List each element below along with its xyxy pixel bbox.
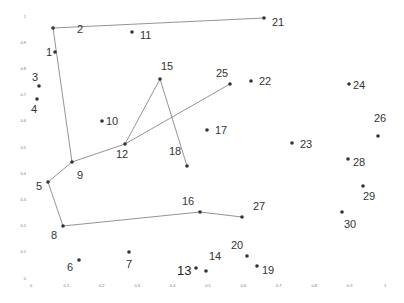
point-label-30: 30 [344,218,356,230]
y-tick-label: 0.1 [20,249,26,254]
connection-lines [48,18,264,226]
edge-16-27 [200,212,242,217]
y-tick-label: 1 [24,14,27,19]
point-label-5: 5 [36,180,42,192]
point-label-17: 17 [215,124,227,136]
x-tick-label: 0.4 [170,283,176,288]
point-label-14: 14 [209,250,221,262]
point-16 [198,210,202,214]
point-14 [204,269,208,273]
point-labels: 1234567891011121314151617181920212223242… [31,16,386,278]
point-23 [290,141,294,145]
point-6 [77,258,81,262]
point-24 [347,82,351,86]
point-label-1: 1 [46,46,52,58]
y-tick-label: 0.9 [20,40,26,45]
edge-2-9 [53,28,72,162]
point-label-11: 11 [140,29,151,41]
point-label-22: 22 [259,75,271,87]
point-11 [130,30,134,34]
y-tick-label: 0.7 [20,92,26,97]
point-5 [46,180,50,184]
point-label-18: 18 [169,145,181,157]
y-axis-ticks: 00.10.20.30.40.50.60.70.80.91 [20,14,26,281]
y-tick-label: 0.3 [20,197,26,202]
data-points [35,16,380,273]
edge-2-21 [53,18,264,28]
point-label-16: 16 [182,195,194,207]
x-tick-label: 0 [30,283,33,288]
point-label-29: 29 [363,190,375,202]
point-label-9: 9 [77,169,83,181]
point-label-6: 6 [67,261,73,273]
scatter-chart: 00.10.20.30.40.50.60.70.80.91 00.10.20.3… [0,0,404,303]
point-label-19: 19 [262,264,274,276]
point-7 [127,250,131,254]
point-13 [194,266,198,270]
x-axis-ticks: 00.10.20.30.40.50.60.70.80.91 [30,283,387,288]
point-9 [70,160,74,164]
point-8 [61,224,65,228]
x-tick-label: 0.2 [99,283,105,288]
point-4 [35,97,39,101]
point-label-10: 10 [106,115,118,127]
x-tick-label: 0.7 [276,283,282,288]
point-18 [185,164,189,168]
point-28 [346,157,350,161]
x-tick-label: 0.5 [205,283,211,288]
point-20 [245,254,249,258]
point-label-21: 21 [272,16,284,28]
y-tick-label: 0 [24,276,27,281]
y-tick-label: 0.5 [20,145,26,150]
point-12 [123,142,127,146]
x-tick-label: 0.3 [134,283,140,288]
point-label-27: 27 [253,200,265,212]
edge-9-5 [48,162,72,182]
point-30 [340,210,344,214]
x-tick-label: 0.1 [64,283,70,288]
point-label-23: 23 [300,138,312,150]
point-label-12: 12 [116,148,128,160]
point-26 [376,134,380,138]
point-label-26: 26 [374,112,386,124]
point-label-3: 3 [32,71,38,83]
point-21 [262,16,266,20]
point-17 [205,128,209,132]
point-label-13: 13 [177,263,191,278]
point-1 [53,50,57,54]
x-tick-label: 0.8 [311,283,317,288]
point-27 [240,215,244,219]
y-tick-label: 0.6 [20,118,26,123]
point-2 [51,26,55,30]
y-tick-label: 0.8 [20,66,26,71]
y-tick-label: 0.2 [20,223,26,228]
y-tick-label: 0.4 [20,171,26,176]
point-label-28: 28 [353,156,365,168]
edge-8-16 [63,212,200,226]
x-tick-label: 0.9 [347,283,353,288]
point-29 [361,184,365,188]
point-label-8: 8 [51,229,57,241]
point-label-25: 25 [216,67,228,79]
point-label-2: 2 [77,23,83,35]
point-15 [158,77,162,81]
x-tick-label: 0.6 [241,283,247,288]
point-22 [249,79,253,83]
point-label-20: 20 [231,239,243,251]
edge-5-8 [48,182,63,226]
point-label-24: 24 [353,79,365,91]
point-label-7: 7 [126,258,132,270]
point-10 [100,119,104,123]
x-tick-label: 1 [384,283,387,288]
point-label-15: 15 [161,60,173,72]
point-25 [228,82,232,86]
point-3 [37,84,41,88]
point-label-4: 4 [31,103,37,115]
point-19 [255,264,259,268]
